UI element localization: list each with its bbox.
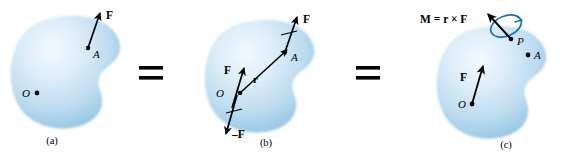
label-point-o-a: O <box>22 87 30 99</box>
equals-sign-2 <box>356 66 380 80</box>
label-point-a-c: A <box>533 49 541 61</box>
panel-c: M = r × F P A F O (c) <box>420 11 546 151</box>
label-force-f-c: F <box>460 71 467 83</box>
label-force-negative-f-b: –F <box>231 128 245 140</box>
label-force-f-at-a-b: F <box>303 13 310 25</box>
figure-container: F A O (a) r F A <box>0 0 567 159</box>
label-point-o-c: O <box>458 98 466 110</box>
label-point-o-b: O <box>216 87 224 99</box>
label-point-a: A <box>92 48 100 60</box>
rigid-body-shape-a <box>11 16 120 129</box>
label-moment-m: M = r × F <box>420 13 467 25</box>
label-force-f-at-o-b: F <box>224 64 231 76</box>
caption-panel-a: (a) <box>46 135 58 147</box>
caption-panel-c: (c) <box>500 139 512 151</box>
point-a-c <box>526 53 531 58</box>
equivalent-force-couple-figure: F A O (a) r F A <box>0 0 567 159</box>
point-o-a <box>35 91 40 96</box>
label-force-f-a: F <box>106 9 113 21</box>
label-point-a-b: A <box>290 51 298 63</box>
label-position-vector-r: r <box>253 73 258 85</box>
rigid-body-shape-c <box>437 26 546 139</box>
equals-sign-1 <box>139 66 163 80</box>
label-point-p-c: P <box>516 35 524 47</box>
caption-panel-b: (b) <box>260 137 273 149</box>
panel-b: r F A F –F O (b) <box>205 13 314 149</box>
panel-a: F A O (a) <box>11 9 120 147</box>
